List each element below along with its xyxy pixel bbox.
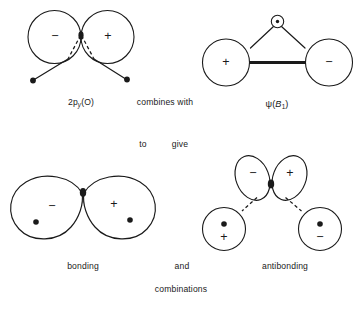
top-right-caption: ψ(B1) — [265, 99, 288, 110]
top-left-atom-dot-right — [124, 77, 130, 83]
antibonding-node-point — [268, 180, 274, 189]
connector-combines-with: combines with — [137, 97, 193, 107]
bonding-caption: bonding — [67, 261, 99, 271]
antibonding-dashed-left — [242, 198, 257, 212]
bonding-plus-lobe — [84, 176, 156, 239]
connector-and: and — [175, 261, 190, 271]
antibonding-caption: antibonding — [262, 261, 308, 271]
bonding-sign-plus: + — [110, 197, 117, 211]
bonding-minus-lobe — [11, 176, 83, 239]
antibonding-dashed-right — [286, 198, 302, 212]
label-2p-tail: (O) — [81, 97, 94, 107]
antibonding-sign-upper-plus: + — [286, 166, 293, 180]
antibonding-sign-upper-minus: − — [249, 166, 256, 180]
antibonding-combination-group: − + + − — [203, 151, 342, 251]
top-left-sign-minus: − — [51, 29, 58, 43]
antibonding-sign-lower-minus: − — [316, 230, 323, 244]
label-psi: ψ — [265, 99, 272, 109]
bonding-atom-dot-left — [33, 219, 39, 225]
top-left-orbital-group: − + — [28, 11, 134, 84]
top-left-sign-plus: + — [104, 29, 111, 43]
cut-off-figure-caption — [0, 305, 362, 312]
top-right-apex-lone-pair-dot — [276, 20, 279, 23]
label-2p: 2p — [68, 97, 78, 107]
svg-text:2py(O): 2py(O) — [68, 97, 94, 109]
top-right-sign-minus: − — [325, 55, 332, 69]
top-right-apex-bond-right — [282, 27, 306, 49]
antibonding-atom-dot-left — [221, 221, 227, 227]
top-left-atom-dot-left — [30, 78, 36, 84]
antibonding-atom-dot-right — [317, 221, 323, 227]
top-right-sign-plus: + — [222, 55, 229, 69]
connector-to: to — [139, 139, 147, 149]
top-right-orbital-group: + − — [203, 15, 353, 86]
bonding-atom-dot-right — [127, 217, 133, 223]
top-left-node-point — [78, 31, 83, 39]
bonding-sign-minus: − — [48, 199, 55, 213]
footer-caption: combinations — [155, 284, 207, 294]
molecular-orbital-diagram: − + 2py(O) combines with + — [0, 0, 362, 312]
label-psi-close: ) — [285, 99, 288, 109]
bonding-combination-group: − + — [11, 176, 156, 239]
bonding-node-point — [80, 188, 86, 197]
connector-give: give — [172, 139, 188, 149]
figure-root: − + 2py(O) combines with + — [0, 0, 362, 312]
antibonding-sign-lower-plus: + — [220, 230, 227, 244]
top-left-caption: 2py(O) — [68, 97, 94, 109]
top-right-apex-bond-left — [251, 27, 274, 49]
